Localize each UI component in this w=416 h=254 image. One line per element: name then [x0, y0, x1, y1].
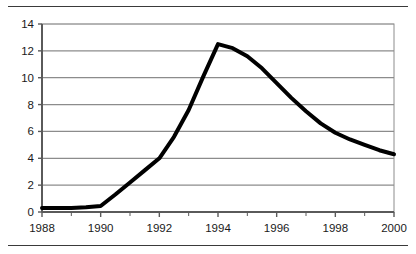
- plot-background: [42, 24, 394, 212]
- y-axis-tick-label: 4: [28, 152, 35, 164]
- y-axis-tick-label: 6: [28, 125, 34, 137]
- y-axis-tick-labels: 02468101214: [21, 18, 34, 218]
- x-axis-tick-label: 1990: [88, 222, 114, 234]
- y-axis-tick-label: 12: [21, 45, 34, 57]
- y-axis-tick-label: 10: [21, 72, 34, 84]
- y-axis-tick-label: 8: [28, 99, 34, 111]
- x-axis-tick-label: 2000: [381, 222, 407, 234]
- y-axis-tick-label: 0: [28, 206, 34, 218]
- x-axis-tick-label: 1992: [147, 222, 173, 234]
- chart-figure: 02468101214 1988199019921994199619982000: [0, 0, 416, 254]
- line-chart: 02468101214 1988199019921994199619982000: [0, 0, 416, 254]
- x-axis-tick-label: 1998: [323, 222, 349, 234]
- x-axis-tick-labels: 1988199019921994199619982000: [29, 222, 407, 234]
- y-axis-tick-label: 14: [21, 18, 34, 30]
- x-axis-tick-label: 1996: [264, 222, 290, 234]
- x-axis-tick-label: 1988: [29, 222, 55, 234]
- x-axis-tick-label: 1994: [205, 222, 231, 234]
- y-axis-tick-label: 2: [28, 179, 34, 191]
